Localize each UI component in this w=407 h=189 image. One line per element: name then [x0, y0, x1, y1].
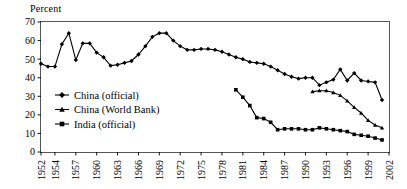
x-tick-label: 1957	[70, 160, 81, 180]
data-point-diamond	[74, 58, 78, 62]
data-point-diamond	[185, 48, 189, 52]
x-tick-label: 1993	[321, 160, 332, 180]
y-tick-label: 10	[25, 128, 35, 139]
series-line	[236, 90, 382, 140]
data-point-square	[276, 128, 280, 132]
data-point-square	[241, 95, 245, 99]
data-point-diamond	[324, 80, 328, 84]
x-tick-label: 1975	[196, 160, 207, 180]
data-point-square	[366, 134, 370, 138]
legend-item-india-official[interactable]: India (official)	[55, 119, 136, 131]
x-tick-label: 1981	[237, 160, 248, 180]
data-point-diamond	[275, 68, 279, 72]
data-point-diamond	[46, 64, 50, 68]
data-point-square	[234, 88, 238, 92]
data-point-diamond	[366, 79, 370, 83]
data-point-diamond	[192, 48, 196, 52]
data-point-square	[373, 136, 377, 140]
data-point-diamond	[220, 50, 224, 54]
data-point-square	[325, 127, 329, 131]
legend-label: China (official)	[74, 90, 139, 102]
legend-item-china-world-bank[interactable]: China (World Bank)	[55, 104, 160, 116]
x-axis-ticks: 1952195419571960196319661969197219751978…	[36, 152, 395, 180]
data-point-square	[345, 130, 349, 134]
series-china-world-bank	[310, 89, 384, 130]
data-point-diamond	[255, 61, 259, 65]
data-point-diamond	[373, 80, 377, 84]
y-tick-label: 70	[25, 16, 35, 27]
plot-frame	[41, 22, 390, 153]
data-point-square	[318, 126, 322, 130]
x-tick-label: 1987	[279, 160, 290, 180]
legend-label: China (World Bank)	[74, 104, 160, 116]
data-point-diamond	[248, 60, 252, 64]
legend-item-china-official[interactable]: China (official)	[55, 90, 139, 102]
data-point-square	[269, 120, 273, 124]
data-point-square	[262, 117, 266, 121]
data-point-diamond	[227, 52, 231, 56]
data-point-diamond	[39, 62, 43, 66]
data-point-diamond	[241, 57, 245, 61]
data-point-square	[297, 127, 301, 131]
data-point-diamond	[59, 92, 65, 98]
data-point-diamond	[303, 76, 307, 80]
x-tick-label: 1972	[175, 160, 186, 180]
data-point-square	[304, 128, 308, 132]
data-point-diamond	[206, 47, 210, 51]
x-tick-label: 1984	[258, 160, 269, 180]
x-tick-label: 1996	[342, 160, 353, 180]
legend-label: India (official)	[74, 119, 136, 131]
series-india-official	[234, 88, 384, 142]
x-tick-label: 2002	[384, 160, 395, 180]
chart-screenshot: Percent 010203040506070 1952195419571960…	[0, 0, 407, 189]
data-point-square	[290, 127, 294, 131]
y-tick-label: 30	[25, 91, 35, 102]
chart-legend: China (official)China (World Bank)India …	[55, 90, 160, 131]
data-point-square	[255, 116, 259, 120]
data-point-square	[248, 104, 252, 108]
y-tick-label: 40	[25, 72, 35, 83]
y-tick-label: 0	[30, 146, 35, 157]
data-point-diamond	[157, 31, 161, 35]
data-point-diamond	[289, 75, 293, 79]
data-point-square	[60, 122, 65, 127]
line-chart: 010203040506070 195219541957196019631966…	[0, 0, 407, 189]
x-tick-label: 1960	[91, 160, 102, 180]
x-tick-label: 1978	[217, 160, 228, 180]
data-point-diamond	[213, 48, 217, 52]
y-axis-ticks: 010203040506070	[25, 16, 41, 157]
data-point-square	[338, 129, 342, 133]
data-point-diamond	[122, 61, 126, 65]
data-point-diamond	[282, 72, 286, 76]
data-point-diamond	[269, 64, 273, 68]
data-point-square	[283, 127, 287, 131]
x-tick-label: 1990	[300, 160, 311, 180]
data-point-diamond	[380, 98, 384, 102]
data-point-diamond	[262, 62, 266, 66]
series-line	[312, 91, 382, 128]
data-point-square	[352, 133, 356, 137]
data-point-diamond	[199, 47, 203, 51]
y-tick-label: 20	[25, 109, 35, 120]
data-point-square	[380, 138, 384, 142]
data-point-diamond	[53, 64, 57, 68]
x-tick-label: 1966	[133, 160, 144, 180]
x-tick-label: 1999	[363, 160, 374, 180]
data-point-diamond	[115, 63, 119, 67]
y-tick-label: 60	[25, 35, 35, 46]
x-tick-label: 1954	[50, 160, 61, 180]
x-tick-label: 1969	[154, 160, 165, 180]
data-point-diamond	[234, 55, 238, 59]
data-point-diamond	[296, 76, 300, 80]
data-point-square	[332, 128, 336, 132]
x-tick-label: 1952	[36, 160, 47, 180]
x-tick-label: 1963	[112, 160, 123, 180]
data-point-square	[311, 128, 315, 132]
y-tick-label: 50	[25, 54, 35, 65]
data-point-square	[359, 133, 363, 137]
data-point-diamond	[81, 41, 85, 45]
